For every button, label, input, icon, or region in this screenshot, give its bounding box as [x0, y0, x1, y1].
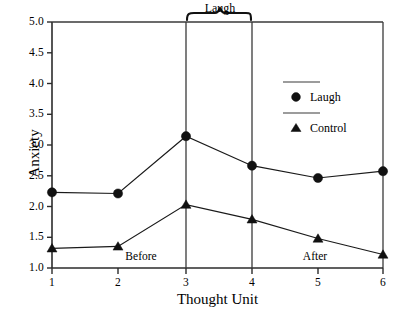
- legend-marker-control: [291, 124, 301, 132]
- x-tick-label-6: 6: [380, 277, 386, 289]
- data-point-laugh-1: [47, 188, 56, 197]
- after-region-label: After: [303, 250, 327, 262]
- y-tick-label-3.5: 3.5: [14, 109, 44, 121]
- series-laugh: [47, 132, 387, 199]
- y-tick-label-3.0: 3.0: [14, 139, 44, 151]
- data-point-control-2: [113, 242, 123, 250]
- legend-label-laugh: Laugh: [310, 90, 341, 105]
- before-region-label: Before: [125, 250, 156, 262]
- legend-label-control: Control: [310, 121, 347, 136]
- anxiety-thought-unit-chart: Anxiety Thought Unit 1.0 1.5 2.0 2.5 3.0…: [0, 0, 399, 319]
- x-tick-label-1: 1: [49, 277, 55, 289]
- legend-marker-laugh: [292, 93, 301, 102]
- x-axis-ticks: [52, 268, 383, 274]
- y-tick-label-4.0: 4.0: [14, 78, 44, 90]
- y-tick-label-1.5: 1.5: [14, 232, 44, 244]
- y-tick-label-2.0: 2.0: [14, 201, 44, 213]
- y-tick-label-4.5: 4.5: [14, 47, 44, 59]
- chart-plot-area: [0, 0, 399, 319]
- y-tick-label-5.0: 5.0: [14, 16, 44, 28]
- data-point-laugh-5: [313, 173, 322, 182]
- data-point-control-3: [181, 200, 191, 208]
- laugh-interval-label: Laugh: [205, 1, 236, 16]
- y-tick-label-2.5: 2.5: [14, 170, 44, 182]
- series-control: [47, 200, 388, 258]
- data-point-laugh-4: [247, 161, 256, 170]
- x-tick-label-5: 5: [315, 277, 321, 289]
- plot-frame: [52, 22, 383, 268]
- x-tick-label-3: 3: [183, 277, 189, 289]
- x-tick-label-4: 4: [249, 277, 255, 289]
- laugh-interval-dividers: [186, 22, 252, 268]
- data-point-laugh-3: [181, 132, 190, 141]
- x-axis-title: Thought Unit: [52, 291, 383, 308]
- y-tick-label-1.0: 1.0: [14, 262, 44, 274]
- x-tick-label-2: 2: [115, 277, 121, 289]
- data-point-laugh-2: [113, 189, 122, 198]
- data-point-laugh-6: [378, 167, 387, 176]
